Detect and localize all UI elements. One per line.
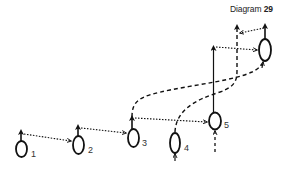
node-1: 1 <box>16 132 36 159</box>
node-label: 5 <box>224 120 229 130</box>
node-oval <box>16 141 27 157</box>
node-label: 3 <box>142 138 147 148</box>
dashed-paths <box>132 27 262 132</box>
node-4: 4 <box>170 133 189 161</box>
node-label: 4 <box>184 143 189 153</box>
node-3: 3 <box>128 118 147 148</box>
diagram-canvas: 1 2 3 4 5 <box>0 0 288 171</box>
dashed-curve-4-to-top <box>175 27 237 132</box>
node-6 <box>259 26 271 68</box>
dashed-curve-3-to-6 <box>132 64 262 117</box>
node-oval <box>259 39 271 61</box>
node-5: 5 <box>209 48 229 152</box>
dotted-arrow-1-to-2 <box>24 134 71 141</box>
node-2: 2 <box>73 127 93 155</box>
node-label: 1 <box>31 149 36 159</box>
node-label: 2 <box>88 145 93 155</box>
dotted-arrow-6-to-top <box>240 28 264 33</box>
dotted-arrow-2-to-3 <box>81 128 126 133</box>
node-oval <box>73 136 84 154</box>
node-oval <box>209 113 221 130</box>
node-oval <box>170 133 180 153</box>
dotted-arrow-3-to-5 <box>135 118 207 122</box>
node-oval <box>128 129 139 147</box>
